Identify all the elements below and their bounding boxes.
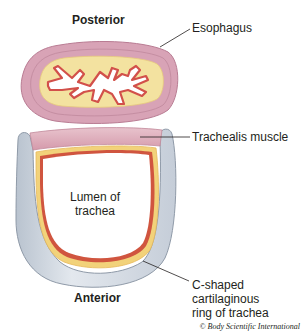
lumen-label-line1: Lumen of	[60, 190, 130, 204]
cartilage-label: C-shaped cartilaginous ring of trachea	[192, 278, 269, 320]
trachealis-muscle-label: Trachealis muscle	[192, 130, 288, 144]
lumen-label-line2: trachea	[60, 204, 130, 218]
esophagus	[21, 41, 178, 123]
cartilage-label-line3: ring of trachea	[192, 306, 269, 320]
copyright-credit: © Body Scientific International	[200, 322, 301, 331]
posterior-label: Posterior	[72, 13, 125, 27]
anterior-label: Anterior	[74, 291, 121, 305]
cartilage-label-line1: C-shaped	[192, 278, 269, 292]
lumen-label: Lumen of trachea	[60, 190, 130, 218]
esophagus-label: Esophagus	[192, 21, 252, 35]
cartilage-label-line2: cartilaginous	[192, 292, 269, 306]
esophagus-leader-line	[160, 29, 190, 47]
